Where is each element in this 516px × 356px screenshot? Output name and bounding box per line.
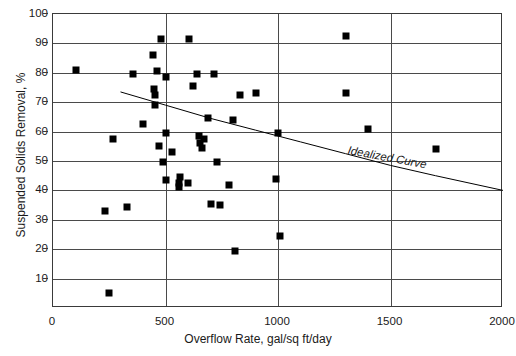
- y-tick-mark-40: [43, 189, 48, 190]
- data-point: [194, 71, 201, 78]
- data-point: [72, 66, 79, 73]
- gridline-y-30: [53, 220, 501, 221]
- data-point: [214, 159, 221, 166]
- gridline-y-80: [53, 73, 501, 74]
- x-tick-label-2000: 2000: [489, 315, 515, 327]
- data-point: [252, 90, 259, 97]
- y-tick-label-10: 10: [4, 272, 48, 284]
- data-point: [101, 207, 108, 214]
- y-tick-mark-100: [43, 13, 48, 14]
- data-point: [205, 115, 212, 122]
- data-point: [106, 290, 113, 297]
- data-point: [277, 232, 284, 239]
- x-tick-label-1000: 1000: [264, 315, 290, 327]
- data-point: [153, 68, 160, 75]
- chart-page: 102030405060708090100 Suspended Solids R…: [0, 0, 516, 356]
- y-tick-mark-20: [43, 248, 48, 249]
- gridline-y-90: [53, 43, 501, 44]
- data-point: [124, 203, 131, 210]
- y-axis-title: Suspended Solids Removal, %: [14, 45, 28, 265]
- gridline-y-20: [53, 249, 501, 250]
- gridline-y-50: [53, 161, 501, 162]
- data-point: [186, 35, 193, 42]
- data-point: [230, 116, 237, 123]
- data-point: [342, 33, 349, 40]
- data-point: [151, 91, 158, 98]
- data-point: [162, 130, 169, 137]
- y-tick-mark-80: [43, 72, 48, 73]
- data-point: [232, 247, 239, 254]
- data-point: [225, 181, 232, 188]
- data-point: [365, 125, 372, 132]
- y-tick-label-100: 100: [4, 7, 48, 19]
- data-point: [216, 202, 223, 209]
- y-tick-mark-50: [43, 160, 48, 161]
- data-point: [169, 149, 176, 156]
- gridline-y-10: [53, 279, 501, 280]
- data-point: [150, 52, 157, 59]
- gridline-y-70: [53, 102, 501, 103]
- data-point: [155, 143, 162, 150]
- gridline-y-40: [53, 190, 501, 191]
- data-point: [210, 71, 217, 78]
- data-point: [177, 174, 184, 181]
- y-tick-mark-60: [43, 131, 48, 132]
- data-point: [185, 180, 192, 187]
- data-point: [200, 135, 207, 142]
- plot-area: Idealized Curve: [52, 13, 502, 307]
- data-point: [207, 200, 214, 207]
- x-tick-label-0: 0: [49, 315, 55, 327]
- data-point: [129, 71, 136, 78]
- y-tick-mark-90: [43, 42, 48, 43]
- data-point: [162, 74, 169, 81]
- data-point: [140, 121, 147, 128]
- x-axis-title: Overflow Rate, gal/sq ft/day: [0, 332, 516, 346]
- data-point: [275, 130, 282, 137]
- data-point: [189, 83, 196, 90]
- x-axis-ticks: 0500100015002000: [0, 311, 516, 329]
- data-point: [236, 91, 243, 98]
- idealized-curve-label: Idealized Curve: [347, 144, 428, 170]
- x-tick-label-500: 500: [155, 315, 174, 327]
- data-point: [162, 177, 169, 184]
- y-tick-mark-10: [43, 278, 48, 279]
- x-tick-label-1500: 1500: [377, 315, 403, 327]
- y-tick-mark-30: [43, 219, 48, 220]
- y-tick-mark-70: [43, 101, 48, 102]
- gridline-x-1000: [278, 14, 279, 306]
- data-point: [160, 159, 167, 166]
- data-point: [432, 146, 439, 153]
- data-point: [198, 144, 205, 151]
- data-point: [109, 135, 116, 142]
- data-point: [272, 175, 279, 182]
- data-point: [158, 35, 165, 42]
- data-point: [152, 102, 159, 109]
- data-point: [342, 90, 349, 97]
